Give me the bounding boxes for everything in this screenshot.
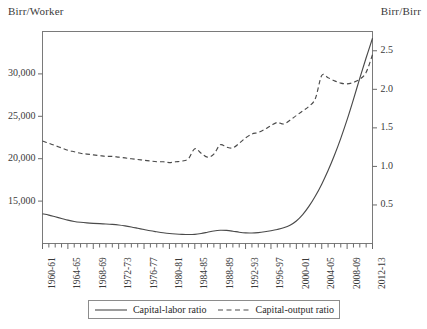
x-axis-tick-label: 2004-05 bbox=[326, 257, 336, 289]
legend-swatch-dashed-line bbox=[217, 306, 251, 314]
series-line-capital-output-ratio bbox=[43, 55, 373, 163]
left-axis-unit-label: Birr/Worker bbox=[8, 5, 64, 17]
x-axis-tick-label: 1992-93 bbox=[250, 257, 260, 289]
left-axis-tick-label: 20,000 bbox=[8, 152, 36, 163]
x-axis-tick-label: 1988-89 bbox=[225, 257, 235, 289]
chart-figure: Birr/Worker Birr/Birr 15,00020,00025,000… bbox=[0, 0, 427, 329]
x-axis-tick-label: 1972-73 bbox=[123, 257, 133, 289]
right-axis-tick-label: 2.5 bbox=[381, 44, 394, 55]
left-axis-tick-label: 15,000 bbox=[8, 195, 36, 206]
x-axis-tick-label: 1984-85 bbox=[199, 257, 209, 289]
x-axis-tick-label: 2008-09 bbox=[352, 257, 362, 289]
left-axis-tick-label: 25,000 bbox=[8, 110, 36, 121]
x-axis-tick-label: 2000-01 bbox=[301, 257, 311, 289]
x-axis-tick-label: 2012-13 bbox=[377, 257, 387, 289]
x-axis-tick-label: 1980-81 bbox=[174, 257, 184, 289]
x-axis-tick-label: 1996-97 bbox=[275, 257, 285, 289]
plot-frame bbox=[43, 32, 373, 244]
x-axis-tick-label: 1976-77 bbox=[149, 257, 159, 289]
legend-label-capital-output-ratio: Capital-output ratio bbox=[256, 304, 335, 315]
x-axis-tick-label: 1960-61 bbox=[47, 257, 57, 289]
plot-area bbox=[0, 0, 427, 329]
legend-label-capital-labor-ratio: Capital-labor ratio bbox=[133, 304, 207, 315]
chart-legend: Capital-labor ratio Capital-output ratio bbox=[88, 300, 340, 319]
legend-item-capital-labor-ratio: Capital-labor ratio bbox=[94, 304, 207, 315]
x-axis-tick-label: 1964-65 bbox=[72, 257, 82, 289]
series-line-capital-labor-ratio bbox=[43, 38, 373, 234]
right-axis-tick-label: 1.5 bbox=[381, 121, 394, 132]
left-axis-tick-label: 30,000 bbox=[8, 67, 36, 78]
legend-swatch-solid-line bbox=[94, 306, 128, 314]
right-axis-unit-label: Birr/Birr bbox=[381, 5, 421, 17]
right-axis-tick-label: 1.0 bbox=[381, 160, 394, 171]
x-axis-tick-label: 1968-69 bbox=[98, 257, 108, 289]
right-axis-tick-label: 0.5 bbox=[381, 198, 394, 209]
right-axis-tick-label: 2.0 bbox=[381, 83, 394, 94]
legend-item-capital-output-ratio: Capital-output ratio bbox=[217, 304, 335, 315]
